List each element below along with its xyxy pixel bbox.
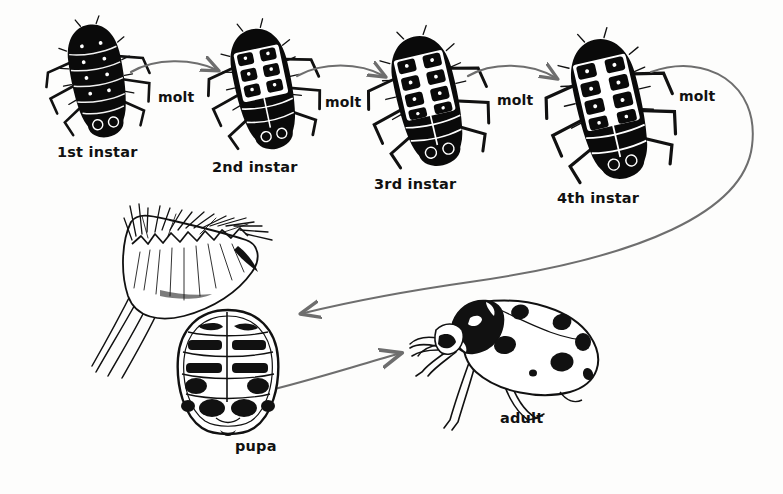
stage-label-pupa: pupa — [235, 439, 277, 454]
stage-label-adult: adult — [500, 411, 543, 426]
arrow-pupa-to-adult — [266, 354, 398, 391]
life-cycle-diagram: 1st instar 2nd instar 3rd instar 4th ins… — [0, 0, 783, 494]
transition-label-molt-4: molt — [679, 89, 716, 103]
transition-label-molt-2: molt — [325, 95, 362, 109]
stage-label-instar4: 4th instar — [557, 191, 639, 206]
stage-label-instar1: 1st instar — [57, 145, 138, 160]
stage-label-instar3: 3rd instar — [374, 177, 456, 192]
stage-label-instar2: 2nd instar — [212, 160, 298, 175]
arrow-molt-2 — [297, 66, 384, 77]
transition-label-molt-1: molt — [158, 90, 195, 104]
larva-4th-instar — [530, 17, 689, 193]
larva-3rd-instar — [353, 15, 501, 178]
transition-label-molt-3: molt — [497, 93, 534, 107]
pupa — [178, 310, 279, 436]
diagram-canvas — [0, 0, 783, 494]
larva-2nd-instar — [195, 10, 332, 160]
larva-1st-instar — [36, 9, 159, 146]
